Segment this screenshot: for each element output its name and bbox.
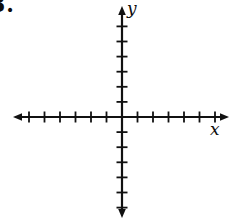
y-axis-top-arrowhead xyxy=(118,6,126,15)
coordinate-plane xyxy=(0,0,237,222)
y-axis-label: y xyxy=(127,0,137,17)
coordinate-plane-figure: 3. y x xyxy=(0,0,237,222)
x-axis-left-arrowhead xyxy=(13,113,22,121)
y-axis-bottom-arrowhead xyxy=(118,209,126,218)
x-axis-right-arrowhead xyxy=(220,113,229,121)
x-axis-label: x xyxy=(210,121,220,138)
